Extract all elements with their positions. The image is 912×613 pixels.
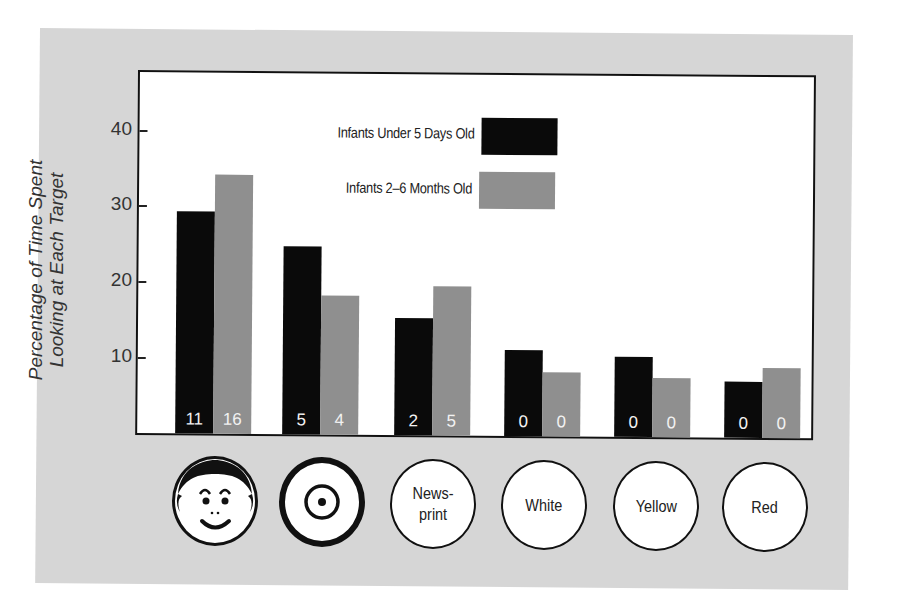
newsprint-label-line-1: News- [413,483,454,504]
bar-face-under-5-days: 11 [175,211,215,433]
newsprint-label: News- print [413,483,454,525]
bar-white-2-6-months: 0 [542,372,581,436]
y-tick-10: 10 [92,345,132,367]
y-tick-20: 20 [92,269,132,291]
bar-newsprint-2-6-months: 5 [432,286,471,435]
bar-count: 5 [282,410,320,430]
bar-count: 4 [320,410,358,430]
plot-area: Infants Under 5 Days Old Infants 2–6 Mon… [135,70,816,440]
bullseye-icon [302,482,342,522]
y-tick-mark-30 [139,205,147,207]
newsprint-label-line-2: print [413,504,454,525]
legend-label-under-5-days: Infants Under 5 Days Old [270,123,474,142]
bar-count: 0 [542,412,580,432]
legend-swatch-gray [479,172,555,210]
bar-count: 11 [175,409,213,429]
bar-red-under-5-days: 0 [724,382,762,438]
y-tick-30: 30 [92,193,132,215]
bar-count: 0 [614,413,652,433]
yellow-label: Yellow [635,496,676,517]
bar-bullseye-under-5-days: 5 [282,246,321,434]
y-tick-mark-40 [140,130,148,132]
legend-label-2-6-months: Infants 2–6 Months Old [268,178,472,197]
y-axis-label: Percentage of Time Spent Looking at Each… [25,140,75,400]
y-tick-40: 40 [92,118,132,140]
yellow-target: Yellow [613,461,699,551]
y-axis-label-line-1: Percentage of Time Spent [25,140,46,400]
bar-white-under-5-days: 0 [504,350,543,436]
y-axis-label-line-2: Looking at Each Target [46,140,67,400]
y-tick-mark-20 [138,281,146,283]
bullseye-target-icon [279,457,365,547]
bar-count: 0 [762,414,800,434]
newsprint-target: News- print [390,459,476,549]
bar-count: 2 [394,411,432,431]
bar-count: 16 [213,410,251,430]
white-label: White [526,495,563,516]
red-target: Red [722,462,808,552]
y-tick-mark-10 [138,357,146,359]
bar-bullseye-2-6-months: 4 [320,295,359,434]
legend-swatch-black [481,118,557,156]
bar-count: 0 [652,413,690,433]
face-target-icon [172,456,258,546]
bar-newsprint-under-5-days: 2 [394,318,433,435]
face-icon [172,456,258,546]
bar-count: 0 [724,414,762,434]
white-target: White [501,460,587,550]
red-label: Red [752,497,779,518]
bar-yellow-2-6-months: 0 [652,378,690,437]
bar-count: 0 [504,412,542,432]
bar-red-2-6-months: 0 [762,368,801,438]
bar-count: 5 [432,411,470,431]
bar-face-2-6-months: 16 [213,175,253,434]
bar-yellow-under-5-days: 0 [614,357,653,437]
